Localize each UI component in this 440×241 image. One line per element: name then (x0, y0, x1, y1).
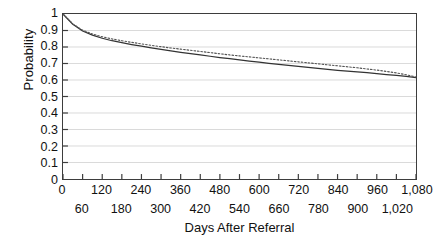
y-axis-tick-labels: 10.90.80.70.60.50.40.30.20.10 (20, 6, 58, 188)
x-tick-label: 480 (209, 183, 230, 197)
plot-area (62, 13, 417, 180)
x-tick-label: 960 (367, 183, 388, 197)
x-tick-label: 420 (190, 202, 211, 216)
x-tick-label: 840 (328, 183, 349, 197)
y-tick-label: 0.6 (20, 74, 58, 87)
x-tick-label: 600 (249, 183, 270, 197)
y-tick-label: 0.1 (20, 157, 58, 170)
solid-curve (63, 14, 416, 78)
x-tick-label: 780 (308, 202, 329, 216)
x-tick-label: 60 (75, 202, 89, 216)
x-tick-label: 360 (170, 183, 191, 197)
x-tick-label: 300 (150, 202, 171, 216)
y-tick-label: 0.4 (20, 107, 58, 120)
survival-curve-chart: Probability 10.90.80.70.60.50.40.30.20.1… (0, 0, 440, 241)
y-tick-label: 0.9 (20, 24, 58, 37)
y-tick-label: 1 (20, 7, 58, 20)
x-tick-label: 660 (269, 202, 290, 216)
x-tick-label: 720 (288, 183, 309, 197)
data-curves (63, 14, 416, 179)
x-axis-title: Days After Referral (62, 220, 417, 235)
x-tick-label: 180 (111, 202, 132, 216)
x-tick-label: 900 (347, 202, 368, 216)
y-tick-label: 0.3 (20, 124, 58, 137)
x-tick-label: 0 (59, 183, 66, 197)
x-axis-tick-labels-lower: 601803004205406607809001,020 (0, 202, 440, 218)
x-tick-label: 120 (91, 183, 112, 197)
x-tick-label: 1,020 (382, 202, 413, 216)
y-tick-label: 0.7 (20, 57, 58, 70)
y-tick-label: 0.5 (20, 91, 58, 104)
y-tick-label: 0.2 (20, 141, 58, 154)
x-axis-tick-labels-upper: 01202403604806007208409601,080 (0, 183, 440, 199)
x-tick-label: 240 (130, 183, 151, 197)
x-tick-label: 1,080 (401, 183, 432, 197)
dotted-curve (63, 14, 416, 77)
x-tick-label: 540 (229, 202, 250, 216)
y-tick-label: 0.8 (20, 40, 58, 53)
